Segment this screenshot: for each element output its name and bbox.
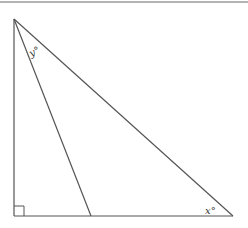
cevian-line xyxy=(14,19,91,216)
hypotenuse xyxy=(14,19,233,216)
angle-label-x: x° xyxy=(205,205,216,216)
triangle-figure: y° x° xyxy=(0,0,248,228)
triangle-diagram: y° x° xyxy=(0,0,248,228)
right-angle-marker xyxy=(14,206,24,216)
